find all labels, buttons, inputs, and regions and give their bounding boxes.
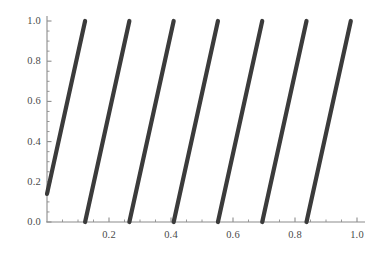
data-line-branch-5 xyxy=(218,21,262,222)
x-tick-label: 0.2 xyxy=(102,230,116,241)
data-line-branch-6 xyxy=(262,21,306,222)
data-line-branch-4 xyxy=(174,21,218,222)
data-line-branch-3 xyxy=(129,21,173,222)
chart-plot-area: 0.00.20.40.60.81.0 0.20.40.60.81.0 xyxy=(0,0,388,253)
y-tick-label: 1.0 xyxy=(27,16,41,27)
chart-canvas xyxy=(0,0,388,253)
y-tick-label: 0.4 xyxy=(27,136,41,147)
x-tick-label: 0.6 xyxy=(226,230,240,241)
data-series-layer xyxy=(47,21,351,222)
x-tick-label: 0.4 xyxy=(164,230,178,241)
data-line-branch-2 xyxy=(85,21,129,222)
y-tick-label: 0.2 xyxy=(27,177,41,188)
data-line-branch-7 xyxy=(307,21,351,222)
y-tick-label: 0.0 xyxy=(27,217,41,228)
x-tick-label: 1.0 xyxy=(350,230,364,241)
data-line-branch-1 xyxy=(47,21,85,194)
y-tick-label: 0.8 xyxy=(27,56,41,67)
x-tick-label: 0.8 xyxy=(288,230,302,241)
y-tick-label: 0.6 xyxy=(27,96,41,107)
